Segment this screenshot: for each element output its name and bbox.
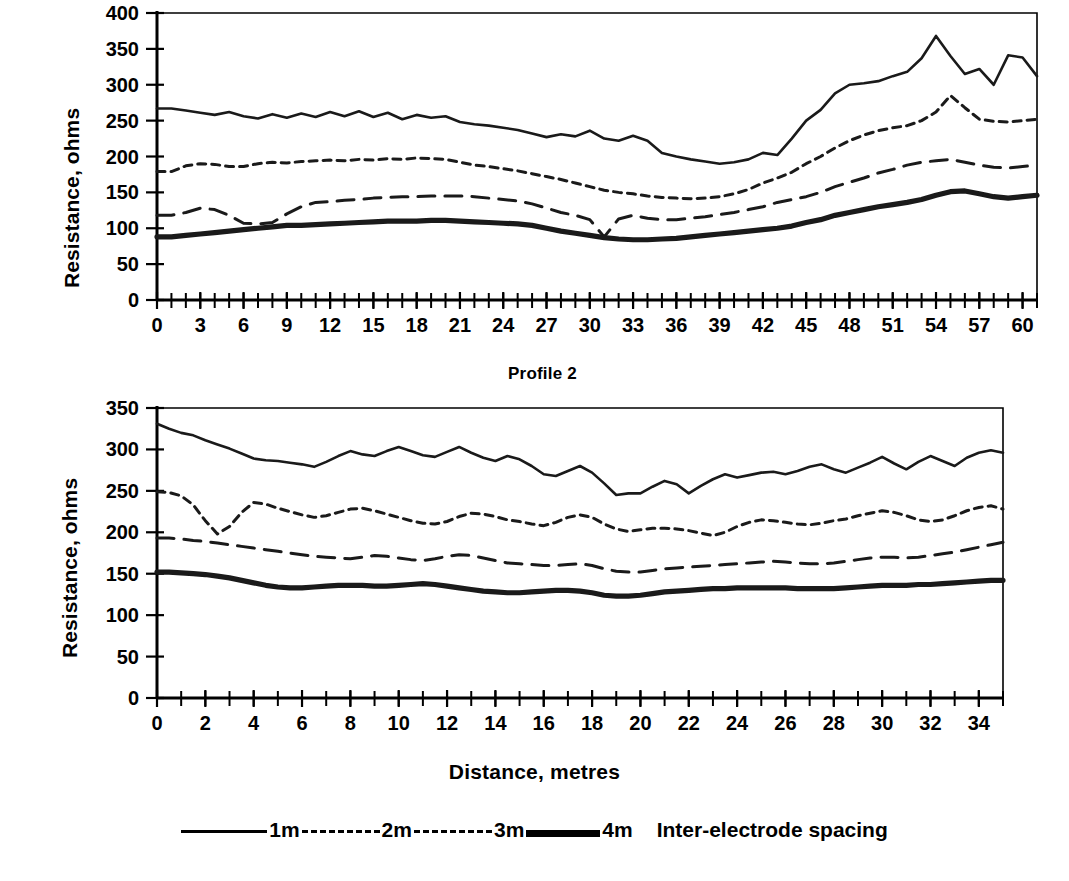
svg-text:6: 6 [296,712,307,734]
x-axis-label: Distance, metres [0,760,1069,784]
svg-text:15: 15 [362,314,384,336]
svg-text:300: 300 [106,438,139,460]
svg-text:22: 22 [678,712,700,734]
svg-text:36: 36 [665,314,687,336]
y-axis-label-bottom: Resistance, ohms [58,478,82,658]
svg-text:33: 33 [622,314,644,336]
svg-text:12: 12 [319,314,341,336]
svg-text:8: 8 [345,712,356,734]
svg-text:20: 20 [629,712,651,734]
svg-text:350: 350 [106,397,139,419]
legend-label-1m: 1m [267,818,301,842]
svg-text:34: 34 [968,712,991,734]
svg-text:24: 24 [492,314,515,336]
svg-text:100: 100 [106,604,139,626]
svg-text:0: 0 [128,687,139,709]
svg-text:32: 32 [919,712,941,734]
svg-text:300: 300 [106,74,139,96]
svg-text:50: 50 [117,253,139,275]
svg-text:51: 51 [882,314,904,336]
svg-text:200: 200 [106,521,139,543]
plot-area-profile-1: 0501001502002503003504000369121518212427… [0,0,1069,360]
legend-line-3m-icon [414,823,492,837]
svg-text:0: 0 [128,289,139,311]
svg-text:9: 9 [281,314,292,336]
svg-text:14: 14 [484,712,507,734]
legend-item-4m: 4m [526,818,634,842]
y-axis-label-top: Resistance, ohms [60,108,84,288]
svg-text:3: 3 [195,314,206,336]
svg-text:12: 12 [436,712,458,734]
svg-text:18: 18 [406,314,428,336]
legend-line-1m-icon [181,823,267,837]
legend-item-1m: 1m [181,818,301,842]
legend-label-3m: 3m [492,818,526,842]
svg-text:48: 48 [838,314,860,336]
svg-text:50: 50 [117,646,139,668]
svg-text:30: 30 [871,712,893,734]
chart-profile-1: Resistance, ohms 05010015020025030035040… [0,0,1069,360]
svg-text:200: 200 [106,146,139,168]
resistivity-profiles-figure: Resistance, ohms 05010015020025030035040… [0,0,1069,881]
legend-note: Inter-electrode spacing [657,818,888,842]
svg-text:400: 400 [106,2,139,24]
svg-text:250: 250 [106,480,139,502]
legend-label-2m: 2m [380,818,414,842]
svg-text:150: 150 [106,181,139,203]
chart-profile-2: Profile 2 Resistance, ohms 0501001502002… [0,360,1069,760]
svg-text:45: 45 [795,314,817,336]
svg-text:26: 26 [774,712,796,734]
legend-label-4m: 4m [600,818,634,842]
chart-title-profile-2: Profile 2 [8,364,1069,384]
svg-text:42: 42 [752,314,774,336]
legend-item-2m: 2m [302,818,414,842]
svg-text:0: 0 [151,712,162,734]
svg-text:18: 18 [581,712,603,734]
legend-line-4m-icon [526,823,600,837]
svg-text:250: 250 [106,110,139,132]
svg-text:21: 21 [449,314,471,336]
svg-text:60: 60 [1011,314,1033,336]
legend: 1m 2m 3m 4m Inter-electrode spacing [0,806,1069,854]
svg-text:57: 57 [968,314,990,336]
svg-text:6: 6 [238,314,249,336]
svg-text:10: 10 [388,712,410,734]
svg-text:27: 27 [535,314,557,336]
svg-text:150: 150 [106,563,139,585]
svg-text:30: 30 [579,314,601,336]
svg-text:28: 28 [823,712,845,734]
svg-text:100: 100 [106,217,139,239]
svg-text:24: 24 [726,712,749,734]
svg-text:39: 39 [708,314,730,336]
svg-text:0: 0 [151,314,162,336]
svg-text:54: 54 [925,314,948,336]
svg-text:4: 4 [248,712,260,734]
svg-text:16: 16 [533,712,555,734]
plot-area-profile-2: 0501001502002503003500246810121416182022… [0,360,1069,760]
svg-text:2: 2 [200,712,211,734]
legend-line-2m-icon [302,823,380,837]
legend-item-3m: 3m [414,818,526,842]
svg-text:350: 350 [106,38,139,60]
